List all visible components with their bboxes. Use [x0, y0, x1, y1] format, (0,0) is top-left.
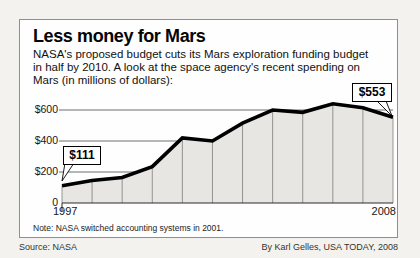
x-axis-tick-1997: 1997: [53, 206, 77, 217]
data-callout-2008: $553: [352, 83, 392, 102]
subtitle-line-3: Mars (in millions of dollars):: [33, 74, 368, 87]
source-attribution: Source: NASA: [19, 242, 77, 252]
page-title: Less money for Mars: [33, 26, 205, 47]
chart-subtitle: NASA's proposed budget cuts its Mars exp…: [33, 48, 368, 87]
y-axis-tick-200: $200: [20, 166, 58, 177]
infographic-page: Less money for Mars NASA's proposed budg…: [0, 0, 420, 258]
data-callout-1997: $111: [63, 146, 101, 165]
y-axis-tick-400: $400: [20, 135, 58, 146]
footnote: Note: NASA switched accounting systems i…: [33, 223, 223, 233]
subtitle-line-2: in half by 2010. A look at the space age…: [33, 61, 368, 74]
subtitle-line-1: NASA's proposed budget cuts its Mars exp…: [33, 48, 368, 61]
x-axis-tick-2008: 2008: [358, 206, 396, 217]
y-axis-tick-600: $600: [20, 104, 58, 115]
byline-credit: By Karl Gelles, USA TODAY, 2008: [200, 242, 398, 252]
